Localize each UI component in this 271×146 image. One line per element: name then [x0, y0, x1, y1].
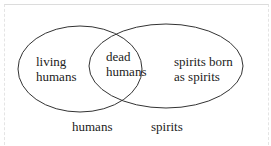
set-label-spirits: spirits: [151, 119, 183, 134]
set-label-humans: humans: [72, 119, 112, 134]
region-living-humans: living humans: [36, 54, 76, 84]
region-spirits-born-as-spirits: spirits born as spirits: [174, 54, 233, 84]
region-dead-humans: dead humans: [106, 49, 146, 79]
